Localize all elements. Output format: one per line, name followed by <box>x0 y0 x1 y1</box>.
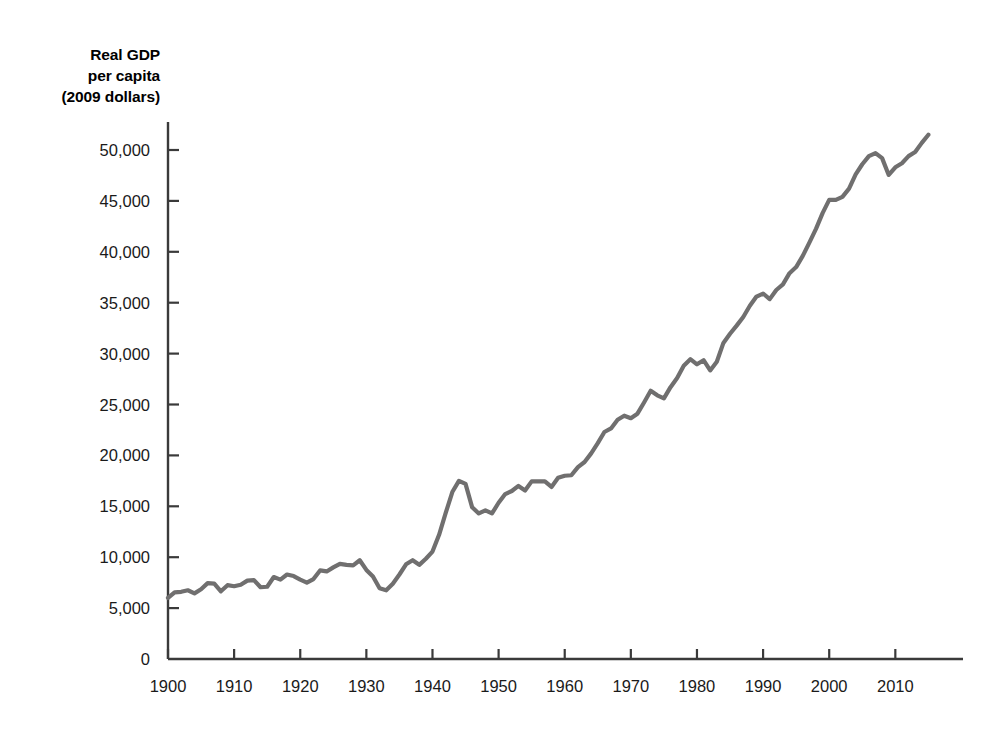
line-chart-plot: 05,00010,00015,00020,00025,00030,00035,0… <box>0 0 997 739</box>
x-tick-label: 2000 <box>811 677 848 695</box>
x-tick-label: 1940 <box>414 677 451 695</box>
y-tick-label: 35,000 <box>100 294 150 312</box>
x-tick-label: 1960 <box>546 677 583 695</box>
y-tick-label: 5,000 <box>109 599 150 617</box>
y-axis-title-line-3: (2009 dollars) <box>28 86 160 107</box>
x-tick-label: 1930 <box>348 677 385 695</box>
x-tick-label: 1970 <box>612 677 649 695</box>
y-tick-label: 40,000 <box>100 243 150 261</box>
x-tick-label: 1900 <box>150 677 187 695</box>
y-tick-label: 25,000 <box>100 396 150 414</box>
x-tick-label: 1980 <box>679 677 716 695</box>
data-line-real-gdp-per-capita <box>168 135 928 598</box>
y-tick-label: 20,000 <box>100 446 150 464</box>
chart-figure: Real GDP per capita (2009 dollars) 05,00… <box>0 0 997 739</box>
y-tick-label: 45,000 <box>100 192 150 210</box>
x-tick-label: 1920 <box>282 677 319 695</box>
x-tick-label: 2010 <box>877 677 914 695</box>
y-tick-label: 15,000 <box>100 497 150 515</box>
y-tick-label: 50,000 <box>100 141 150 159</box>
x-tick-label: 1990 <box>745 677 782 695</box>
x-tick-label: 1910 <box>216 677 253 695</box>
y-tick-label: 10,000 <box>100 548 150 566</box>
y-axis-title-line-2: per capita <box>28 65 160 86</box>
y-tick-label: 30,000 <box>100 345 150 363</box>
y-axis-title-line-1: Real GDP <box>28 44 160 65</box>
y-axis-title: Real GDP per capita (2009 dollars) <box>28 44 160 107</box>
x-tick-label: 1950 <box>480 677 517 695</box>
y-tick-label: 0 <box>141 650 150 668</box>
